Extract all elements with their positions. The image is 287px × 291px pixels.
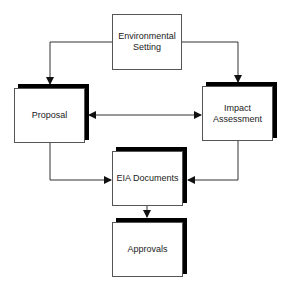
node-label-line2: Setting [118, 42, 176, 53]
edge-env-to-proposal [50, 42, 112, 84]
node-label-line1: Impact [213, 103, 262, 114]
node-label-line2: Assessment [213, 114, 262, 125]
edge-env-to-impact [182, 42, 238, 82]
node-impact-assessment: Impact Assessment [202, 86, 273, 141]
node-environmental-setting: Environmental Setting [112, 14, 182, 70]
node-eia-documents: EIA Documents [112, 151, 183, 206]
node-label: Proposal [32, 110, 68, 121]
edge-impact-to-eia [188, 141, 238, 180]
node-proposal: Proposal [14, 88, 85, 143]
node-label: Approvals [127, 244, 167, 255]
node-label: EIA Documents [116, 173, 178, 184]
node-label-line1: Environmental [118, 31, 176, 42]
node-approvals: Approvals [112, 222, 183, 277]
edge-proposal-to-eia [50, 143, 111, 180]
